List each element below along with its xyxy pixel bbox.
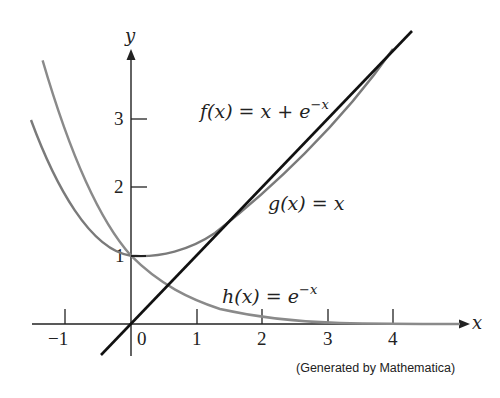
credit-annotation: (Generated by Mathematica) — [296, 361, 455, 375]
y-tick-label: 3 — [114, 108, 124, 129]
label-f: f(x) = x + e−x — [198, 97, 329, 122]
y-axis-arrow-icon — [127, 49, 136, 60]
x-tick-label: 1 — [192, 328, 202, 349]
x-tick-label: 4 — [388, 328, 398, 349]
x-tick-label: 0 — [137, 328, 147, 349]
x-axis-label: x — [472, 312, 482, 333]
x-tick-label: 2 — [257, 328, 267, 349]
x-tick-label: −1 — [48, 328, 68, 349]
y-tick-label: 2 — [114, 176, 124, 197]
x-axis-arrow-icon — [459, 320, 470, 329]
curve-f — [31, 49, 393, 256]
y-tick-label: 1 — [115, 245, 125, 266]
x-tick-label: 3 — [323, 328, 333, 349]
chart-canvas: −1 0 1 2 3 4 1 2 3 y x f(x) = x + e−x g(… — [0, 0, 500, 398]
label-g: g(x) = x — [268, 192, 345, 214]
label-h: h(x) = e−x — [222, 282, 318, 307]
y-axis-label: y — [124, 25, 136, 46]
y-ticks — [131, 119, 147, 256]
